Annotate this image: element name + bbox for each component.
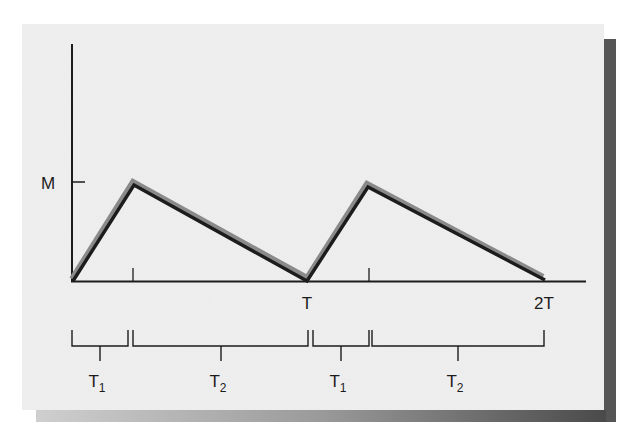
diagram-stage: M T 2T T1 T2 T1 T2 [0, 0, 639, 437]
card-shadow-right [604, 39, 616, 422]
x-label-2t: 2T [534, 294, 554, 313]
sawtooth-diagram: M T 2T T1 T2 T1 T2 [0, 0, 639, 437]
card-shadow-bottom [36, 410, 606, 422]
y-axis-label-m: M [41, 174, 55, 193]
x-label-t: T [302, 294, 312, 313]
